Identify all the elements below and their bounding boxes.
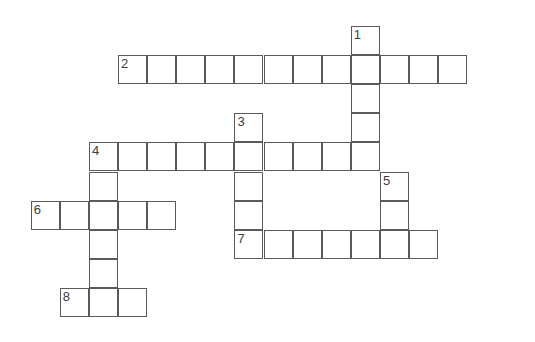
crossword-puzzle-grid: 12345678 (0, 0, 535, 342)
crossword-cell[interactable] (322, 142, 351, 171)
crossword-cell[interactable] (147, 201, 176, 230)
crossword-cell-numbered-3[interactable]: 3 (234, 113, 263, 142)
crossword-cell[interactable] (351, 142, 380, 171)
crossword-cell[interactable] (205, 55, 234, 84)
crossword-cell[interactable] (293, 230, 322, 259)
crossword-cell[interactable] (438, 55, 467, 84)
crossword-cell[interactable] (147, 142, 176, 171)
crossword-cell-numbered-5[interactable]: 5 (380, 172, 409, 201)
crossword-cell-numbered-7[interactable]: 7 (234, 230, 263, 259)
clue-number-4: 4 (92, 143, 99, 158)
crossword-cell[interactable] (380, 230, 409, 259)
crossword-cell[interactable] (89, 230, 118, 259)
clue-number-5: 5 (383, 173, 390, 188)
crossword-cell[interactable] (118, 201, 147, 230)
crossword-cell[interactable] (322, 55, 351, 84)
crossword-cell[interactable] (380, 201, 409, 230)
crossword-cell[interactable] (176, 55, 205, 84)
clue-number-1: 1 (354, 27, 361, 42)
crossword-cell[interactable] (118, 288, 147, 317)
crossword-cell[interactable] (60, 201, 89, 230)
crossword-cell[interactable] (293, 142, 322, 171)
crossword-cell-numbered-8[interactable]: 8 (60, 288, 89, 317)
clue-number-8: 8 (63, 289, 70, 304)
clue-number-2: 2 (121, 56, 128, 71)
crossword-cell[interactable] (322, 230, 351, 259)
crossword-cell[interactable] (147, 55, 176, 84)
crossword-cell[interactable] (89, 172, 118, 201)
clue-number-7: 7 (237, 231, 244, 246)
crossword-cell[interactable] (234, 142, 263, 171)
clue-number-6: 6 (34, 202, 41, 217)
crossword-cell[interactable] (264, 142, 293, 171)
crossword-cell[interactable] (234, 172, 263, 201)
crossword-cell[interactable] (351, 55, 380, 84)
crossword-cell-numbered-6[interactable]: 6 (31, 201, 60, 230)
crossword-cell[interactable] (409, 55, 438, 84)
crossword-cell[interactable] (89, 201, 118, 230)
crossword-cell[interactable] (118, 142, 147, 171)
crossword-cell[interactable] (351, 230, 380, 259)
crossword-cell[interactable] (264, 230, 293, 259)
crossword-cell[interactable] (89, 288, 118, 317)
crossword-cell[interactable] (234, 55, 263, 84)
crossword-cell[interactable] (351, 84, 380, 113)
crossword-cell-numbered-1[interactable]: 1 (351, 26, 380, 55)
clue-number-3: 3 (237, 114, 244, 129)
crossword-cell[interactable] (89, 259, 118, 288)
crossword-cell[interactable] (380, 55, 409, 84)
crossword-cell[interactable] (351, 113, 380, 142)
crossword-cell[interactable] (176, 142, 205, 171)
crossword-cell[interactable] (205, 142, 234, 171)
crossword-cells-layer: 12345678 (0, 0, 535, 342)
crossword-cell[interactable] (409, 230, 438, 259)
crossword-cell[interactable] (234, 201, 263, 230)
crossword-cell-numbered-4[interactable]: 4 (89, 142, 118, 171)
crossword-cell[interactable] (293, 55, 322, 84)
crossword-cell-numbered-2[interactable]: 2 (118, 55, 147, 84)
crossword-cell[interactable] (264, 55, 293, 84)
